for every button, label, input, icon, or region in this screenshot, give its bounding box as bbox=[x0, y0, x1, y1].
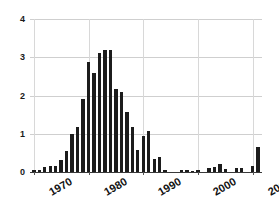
bar bbox=[131, 127, 134, 172]
y-tick-label: 1 bbox=[20, 129, 30, 138]
x-tick-label: 2000 bbox=[211, 176, 238, 198]
x-tick-label: 1970 bbox=[47, 176, 74, 198]
bar bbox=[114, 89, 117, 172]
bar bbox=[76, 127, 79, 172]
bar bbox=[158, 157, 161, 172]
x-tick-mark bbox=[89, 172, 90, 175]
bar bbox=[153, 159, 156, 172]
bar bbox=[81, 99, 84, 172]
x-tick-label: 1990 bbox=[157, 176, 184, 198]
bar bbox=[92, 73, 95, 172]
bar bbox=[136, 150, 139, 172]
bar-chart: 01234 19701980199020002010 bbox=[0, 0, 279, 216]
bar bbox=[103, 50, 106, 172]
x-tick-mark bbox=[253, 172, 254, 175]
bar bbox=[70, 134, 73, 172]
x-tick-mark bbox=[34, 172, 35, 175]
bar bbox=[87, 62, 90, 172]
y-tick-label: 3 bbox=[20, 53, 30, 62]
y-tick-label: 2 bbox=[20, 91, 30, 100]
bar bbox=[256, 147, 259, 172]
x-tick-label: 2010 bbox=[266, 176, 279, 198]
bar bbox=[109, 50, 112, 172]
bar bbox=[147, 131, 150, 172]
x-axis: 19701980199020002010 bbox=[30, 172, 262, 216]
x-tick-mark bbox=[198, 172, 199, 175]
bar bbox=[142, 136, 145, 172]
y-tick-label: 0 bbox=[20, 168, 30, 177]
x-tick-mark bbox=[143, 172, 144, 175]
bar bbox=[59, 160, 62, 172]
bar bbox=[218, 164, 221, 172]
bar bbox=[120, 92, 123, 172]
x-tick-label: 1980 bbox=[102, 176, 129, 198]
bar bbox=[98, 53, 101, 172]
y-tick-label: 4 bbox=[20, 15, 30, 24]
bar bbox=[65, 151, 68, 172]
bar bbox=[125, 112, 128, 172]
bar-series bbox=[30, 19, 262, 172]
